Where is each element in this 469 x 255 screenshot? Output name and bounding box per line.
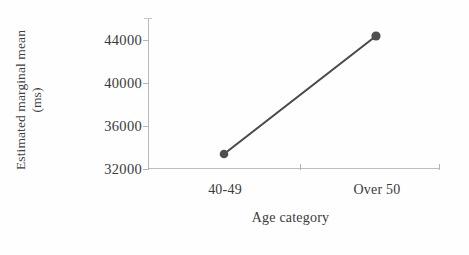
x-tick-label: Over 50: [354, 182, 401, 198]
data-series: [148, 18, 440, 169]
data-point-marker: [220, 150, 229, 159]
y-axis-title: Estimated marginal mean (ms): [6, 0, 52, 200]
y-tick-label: 32000: [72, 161, 142, 178]
x-tick-label: 40-49: [208, 182, 242, 198]
plot-area: [148, 18, 440, 169]
y-axis-title-line2: (ms): [29, 30, 45, 170]
x-axis-title-wrap: Age category: [0, 210, 469, 226]
y-axis-title-line1: Estimated marginal mean: [13, 30, 29, 170]
y-tick-label: 36000: [72, 118, 142, 135]
y-tick-label: 40000: [72, 75, 142, 92]
x-axis-title: Age category: [252, 210, 329, 225]
series-line: [224, 36, 376, 154]
data-point-marker: [371, 31, 380, 40]
y-tick-label: 44000: [72, 32, 142, 49]
chart-figure: Estimated marginal mean (ms) 32000 36000…: [0, 0, 469, 255]
